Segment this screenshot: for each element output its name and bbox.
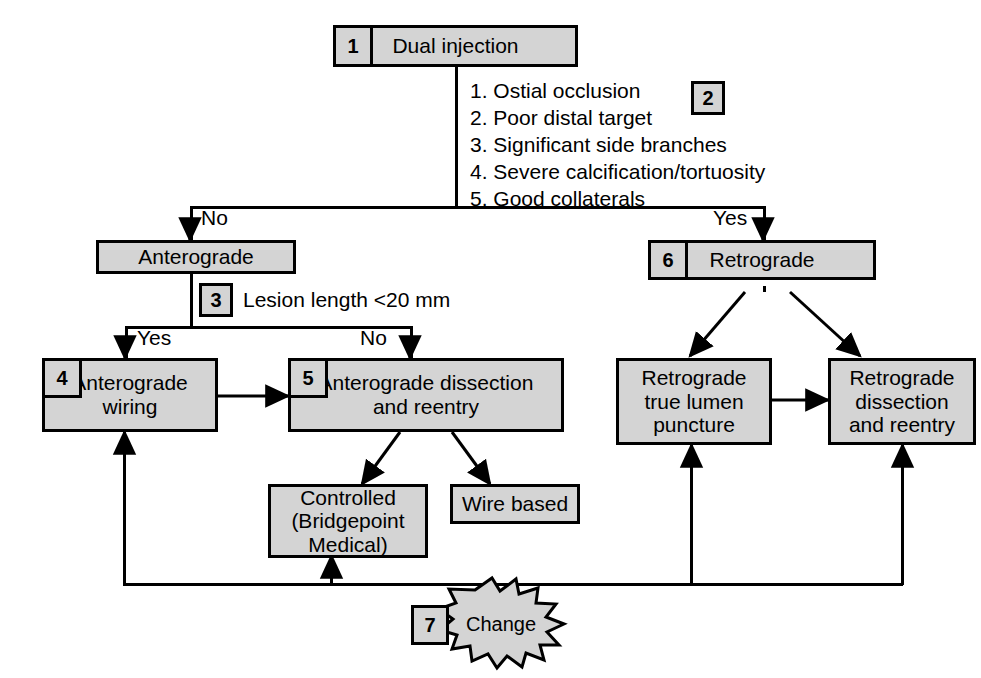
tag-5-label: 5: [302, 367, 313, 390]
edge-label-lesion-yes: Yes: [137, 326, 171, 350]
tag-2-label: 2: [702, 87, 713, 110]
edge-label-no: No: [201, 206, 228, 230]
tag-3-label: 3: [210, 289, 221, 312]
edge-label-yes: Yes: [713, 206, 747, 230]
edge-label-lesion-no: No: [360, 326, 387, 350]
connector-feedback-retrodissect-riser: [901, 445, 904, 585]
flowchart-canvas: Dual injection 1 1. Ostial occlusion 2. …: [0, 0, 981, 678]
node-anterograde-dissection[interactable]: Anterograde dissection and reentry: [288, 358, 564, 432]
node-retrograde-label: Retrograde: [703, 248, 820, 272]
node-retrograde-true-lumen-label: Retrograde true lumen puncture: [635, 366, 752, 437]
tag-1-label: 1: [347, 35, 358, 58]
connector-feedback-controlled-riser: [330, 558, 333, 585]
connector-feedback-left-riser: [123, 432, 126, 585]
connector-anterograde-down: [190, 274, 193, 328]
node-controlled-bridgepoint-label: Controlled (Bridgepoint Medical): [285, 486, 410, 557]
connector-lesion-no-down: [410, 326, 413, 358]
node-anterograde-wiring-label: Anterograde wiring: [66, 371, 194, 418]
node-anterograde[interactable]: Anterograde: [96, 240, 296, 274]
tag-6: 6: [648, 240, 688, 280]
node-dual-injection-label: Dual injection: [386, 34, 524, 58]
connector-lesion-yes-down: [125, 326, 128, 358]
tag-4-label: 4: [56, 367, 67, 390]
page-edge-artifact: [975, 560, 981, 670]
connector-feedback-truelumen-riser: [690, 445, 693, 585]
node-retrograde-dissection[interactable]: Retrograde dissection and reentry: [828, 358, 976, 445]
tag-7: 7: [411, 605, 449, 645]
connector-split-left-down: [190, 206, 193, 240]
connector-retrograde-stem: [763, 286, 766, 292]
tag-4: 4: [42, 358, 82, 398]
lesion-length-label: Lesion length <20 mm: [243, 288, 450, 312]
tag-2: 2: [691, 81, 725, 115]
node-retrograde-dissection-label: Retrograde dissection and reentry: [843, 366, 961, 437]
tag-5: 5: [288, 358, 328, 398]
node-anterograde-dissection-label: Anterograde dissection and reentry: [313, 371, 540, 418]
change-label: Change: [466, 613, 536, 636]
node-retrograde-true-lumen[interactable]: Retrograde true lumen puncture: [616, 358, 772, 445]
node-wire-based[interactable]: Wire based: [450, 484, 580, 524]
tag-6-label: 6: [662, 249, 673, 272]
tag-7-label: 7: [424, 614, 435, 637]
tag-1: 1: [333, 25, 373, 67]
node-anterograde-label: Anterograde: [132, 245, 260, 269]
tag-3: 3: [199, 283, 233, 317]
node-controlled-bridgepoint[interactable]: Controlled (Bridgepoint Medical): [268, 484, 428, 558]
connector-dualinjection-down: [455, 66, 458, 208]
node-wire-based-label: Wire based: [456, 492, 574, 516]
connector-feedback-bus: [123, 583, 903, 586]
